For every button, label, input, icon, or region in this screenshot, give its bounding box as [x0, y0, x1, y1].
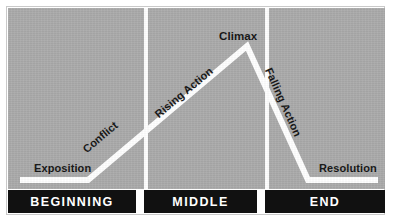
label-climax: Climax — [219, 30, 257, 42]
stage-label-beginning: BEGINNING — [8, 190, 136, 213]
plot-diagram: Exposition Conflict Rising Action Climax… — [0, 0, 393, 223]
stage-label-middle: MIDDLE — [144, 190, 257, 213]
stage-label-bar: BEGINNING MIDDLE END — [8, 190, 385, 213]
label-resolution: Resolution — [319, 162, 377, 174]
stage-gap-1 — [136, 190, 144, 213]
stage-gap-2 — [257, 190, 265, 213]
label-exposition: Exposition — [34, 162, 91, 174]
stage-label-end: END — [265, 190, 385, 213]
arc-polyline — [20, 46, 378, 180]
story-arc-panel: Exposition Conflict Rising Action Climax… — [8, 8, 385, 189]
